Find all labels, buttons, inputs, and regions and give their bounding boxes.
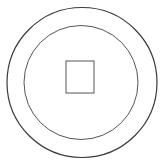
center-square-hole bbox=[66, 61, 94, 93]
inner-ring bbox=[24, 26, 138, 140]
coin-drawing bbox=[0, 0, 164, 168]
outer-ring bbox=[7, 8, 157, 158]
